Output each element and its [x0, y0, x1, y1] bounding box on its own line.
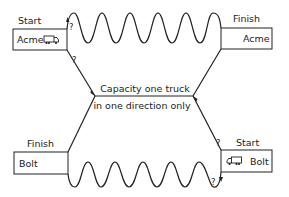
acme-company-right: Acme [243, 33, 270, 44]
truck-icon [227, 157, 242, 165]
question-mark-left-diagonal: ? [72, 55, 77, 65]
diagonal-acme-finish-to-junction [193, 49, 221, 96]
capacity-caption-line2: in one direction only [93, 100, 191, 111]
question-mark-top-wave: ? [69, 22, 74, 32]
top-wavy-road [67, 13, 221, 43]
acme-finish-label: Finish [233, 13, 260, 24]
deadlock-diagram: Start Acme Finish Acme Finish Bolt Start… [0, 0, 289, 197]
arrow-head-left-junction [91, 90, 96, 96]
question-mark-right-diagonal: ? [216, 138, 221, 148]
acme-company-left: Acme [17, 34, 44, 45]
bottom-wavy-road [68, 162, 221, 187]
bolt-company-left: Bolt [19, 158, 38, 169]
bolt-start-label: Start [236, 137, 259, 148]
truck-icon [44, 36, 59, 44]
bolt-finish-label: Finish [27, 138, 54, 149]
bolt-company-right: Bolt [250, 156, 269, 167]
diagonal-junction-to-bolt-finish [68, 96, 95, 152]
capacity-caption-line1: Capacity one truck [100, 83, 190, 94]
question-mark-bottom-wave: ? [211, 177, 216, 187]
acme-start-label: Start [18, 15, 41, 26]
